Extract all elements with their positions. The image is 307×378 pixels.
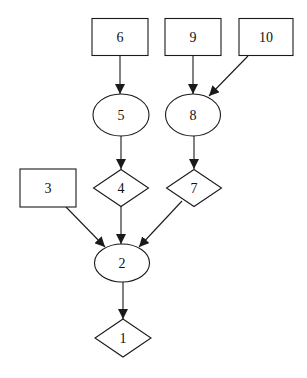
node-9: 9 (165, 19, 221, 56)
node-label: 7 (191, 181, 198, 196)
node-6: 6 (92, 19, 148, 56)
node-8: 8 (166, 94, 221, 136)
node-5: 5 (93, 94, 149, 136)
edge-7-to-2 (139, 201, 182, 247)
node-3: 3 (20, 169, 76, 207)
node-label: 3 (45, 181, 52, 196)
edge-3-to-2 (66, 207, 105, 247)
node-7: 7 (167, 170, 222, 207)
node-label: 2 (119, 256, 126, 271)
directed-graph: 12345678910 (0, 0, 307, 378)
node-label: 8 (190, 108, 197, 123)
node-4: 4 (94, 170, 149, 207)
node-2: 2 (95, 244, 150, 282)
node-1: 1 (95, 319, 151, 357)
node-label: 10 (259, 30, 273, 45)
node-10: 10 (239, 19, 293, 56)
node-label: 9 (190, 30, 197, 45)
edge-10-to-8 (209, 56, 248, 96)
nodes-layer: 12345678910 (20, 19, 293, 358)
node-label: 6 (117, 30, 124, 45)
node-label: 4 (118, 181, 125, 196)
node-label: 5 (118, 108, 125, 123)
node-label: 1 (120, 331, 127, 346)
